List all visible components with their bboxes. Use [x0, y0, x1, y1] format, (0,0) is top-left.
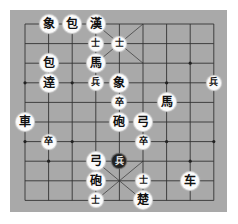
xiangqi-piece[interactable]: 卒	[42, 135, 56, 149]
xiangqi-piece[interactable]: 弓	[87, 152, 105, 170]
xiangqi-piece[interactable]: 車	[16, 113, 34, 131]
xiangqi-piece[interactable]: 士	[89, 37, 103, 51]
xiangqi-piece[interactable]: 馬	[87, 54, 105, 72]
xiangqi-piece[interactable]: 象	[40, 15, 58, 33]
xiangqi-piece[interactable]: 卒	[136, 135, 150, 149]
xiangqi-piece[interactable]: 砲	[87, 172, 105, 190]
xiangqi-piece[interactable]: 弓	[134, 113, 152, 131]
xiangqi-piece[interactable]: 士	[136, 174, 150, 188]
xiangqi-piece[interactable]: 馬	[158, 93, 176, 111]
xiangqi-piece[interactable]: 士	[112, 37, 126, 51]
xiangqi-piece[interactable]: 兵	[207, 76, 221, 90]
xiangqi-piece[interactable]: 兵	[89, 76, 103, 90]
xiangqi-piece[interactable]: 漢	[87, 15, 105, 33]
xiangqi-piece[interactable]: 包	[40, 54, 58, 72]
xiangqi-piece[interactable]: 逹	[40, 74, 58, 92]
xiangqi-piece[interactable]: 车	[181, 172, 199, 190]
